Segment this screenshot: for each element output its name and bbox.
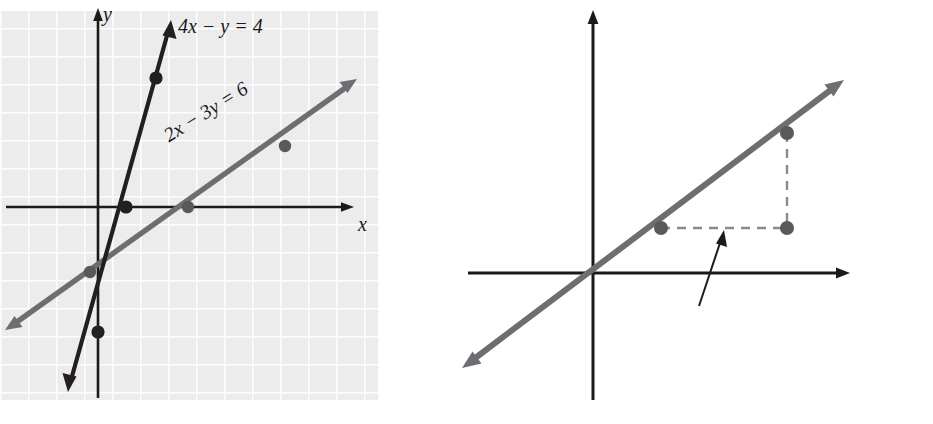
- x-axis: [468, 268, 850, 279]
- point-q: [780, 221, 794, 235]
- point-black-y-intercept: [91, 325, 104, 338]
- right-graph-panel: y x P1 P2 Q Vertical change Horizontal c…: [420, 0, 933, 424]
- point-gray-x-intercept: [182, 201, 194, 213]
- point-p1: [654, 221, 668, 235]
- point-black-x-intercept: [119, 200, 132, 213]
- point-p2: [780, 126, 794, 140]
- left-y-axis-label: y: [103, 4, 112, 24]
- figure-root: y x 4x − y = 4 2x − 3y = 6: [0, 0, 933, 424]
- equation-label-line-1: 4x − y = 4: [178, 16, 263, 36]
- y-axis: [588, 10, 599, 400]
- horizontal-change-pointer-icon: [699, 230, 727, 306]
- left-graph-panel: y x 4x − y = 4 2x − 3y = 6: [0, 0, 380, 424]
- left-x-axis-label: x: [358, 214, 367, 234]
- left-graph-svg: [0, 0, 380, 424]
- point-gray-y-intercept: [84, 266, 96, 278]
- point-black-upper: [149, 71, 162, 84]
- point-gray-upper: [279, 140, 291, 152]
- right-graph-svg: [420, 0, 933, 424]
